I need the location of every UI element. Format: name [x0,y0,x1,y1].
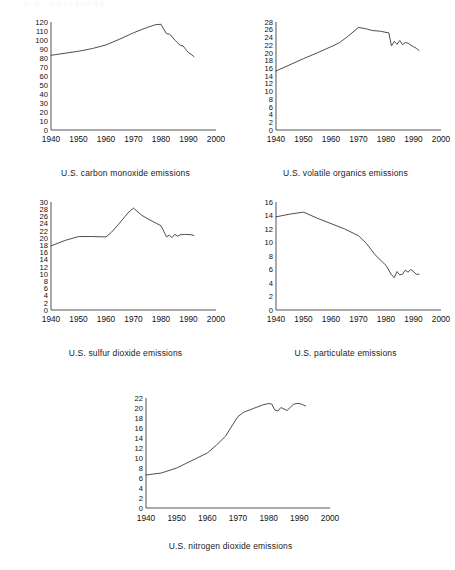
y-tick-label: 8 [139,464,143,473]
chart-panel-nitrogen-dioxide: 0246810121416182022194019501960197019801… [108,388,353,528]
y-tick-label: 12 [265,79,273,88]
x-tick-label: 2000 [432,134,451,144]
emissions-figure-page: U.S. EMISSIONS 0102030405060708090100110… [0,0,455,570]
x-tick-label: 1970 [124,134,143,144]
chart-volatile-organics: 0246810121416182022242628194019501960197… [243,14,455,149]
x-tick-label: 1980 [152,134,171,144]
chart-caption-volatile-organics: U.S. volatile organics emissions [238,168,453,178]
y-tick-label: 22 [135,394,143,403]
x-tick-label: 1990 [179,134,198,144]
chart-panel-sulfur-dioxide: 0246810121416182022242628301940195019601… [18,194,233,329]
x-tick-label: 1970 [229,513,248,523]
chart-caption-carbon-monoxide: U.S. carbon monoxide emissions [18,168,233,178]
y-tick-label: 2 [269,292,273,301]
y-tick-label: 12 [265,225,273,234]
x-tick-label: 1950 [294,314,313,324]
x-tick-label: 1980 [259,513,278,523]
x-tick-label: 2000 [207,134,226,144]
chart-panel-particulate: 0246810121416194019501960197019801990200… [243,194,455,329]
y-tick-label: 10 [40,117,48,126]
y-tick-label: 2 [269,118,273,127]
y-tick-label: 10 [265,238,273,247]
x-tick-label: 1980 [377,314,396,324]
y-tick-label: 10 [265,87,273,96]
x-tick-label: 1960 [97,134,116,144]
y-tick-label: 14 [135,434,143,443]
x-tick-label: 1960 [198,513,217,523]
data-series-line [51,208,194,246]
data-series-line [51,24,194,56]
x-tick-label: 1940 [267,314,286,324]
x-tick-label: 1960 [322,314,341,324]
y-tick-label: 8 [269,252,273,261]
y-tick-label: 30 [40,99,48,108]
x-tick-label: 1960 [97,314,116,324]
x-tick-label: 1970 [349,134,368,144]
x-tick-label: 1970 [349,314,368,324]
y-tick-label: 10 [135,454,143,463]
y-tick-label: 80 [40,54,48,63]
y-tick-label: 6 [269,265,273,274]
x-tick-label: 1940 [42,314,61,324]
x-tick-label: 1970 [124,314,143,324]
y-tick-label: 100 [35,36,48,45]
x-tick-label: 1950 [167,513,186,523]
chart-carbon-monoxide: 0102030405060708090100110120194019501960… [18,14,233,149]
y-tick-label: 14 [265,211,273,220]
y-tick-label: 4 [269,279,273,288]
data-series-line [146,404,305,476]
data-series-line [276,27,419,71]
y-tick-label: 120 [35,18,48,27]
y-tick-label: 28 [265,18,273,27]
y-tick-label: 14 [265,72,273,81]
y-tick-label: 40 [40,90,48,99]
x-tick-label: 1950 [69,134,88,144]
chart-caption-nitrogen-dioxide: U.S. nitrogen dioxide emissions [108,541,353,551]
y-tick-label: 4 [139,484,143,493]
data-series-line [276,212,419,277]
x-tick-label: 1940 [267,134,286,144]
y-tick-label: 4 [269,110,273,119]
y-tick-label: 16 [135,424,143,433]
y-tick-label: 20 [40,108,48,117]
chart-panel-carbon-monoxide: 0102030405060708090100110120194019501960… [18,14,233,149]
y-tick-label: 70 [40,63,48,72]
x-tick-label: 1990 [404,134,423,144]
y-tick-label: 60 [40,72,48,81]
x-tick-label: 1940 [42,134,61,144]
y-tick-label: 0 [139,504,143,513]
y-tick-label: 18 [135,414,143,423]
y-tick-label: 50 [40,81,48,90]
x-tick-label: 1990 [404,314,423,324]
chart-caption-particulate: U.S. particulate emissions [238,348,453,358]
y-tick-label: 8 [269,95,273,104]
y-tick-label: 22 [265,41,273,50]
chart-caption-sulfur-dioxide: U.S. sulfur dioxide emissions [18,348,233,358]
x-tick-label: 2000 [207,314,226,324]
chart-nitrogen-dioxide: 0246810121416182022194019501960197019801… [108,388,353,528]
y-tick-label: 16 [265,64,273,73]
y-tick-label: 18 [265,56,273,65]
x-tick-label: 1980 [152,314,171,324]
x-tick-label: 2000 [432,314,451,324]
x-tick-label: 1990 [290,513,309,523]
x-tick-label: 1960 [322,134,341,144]
y-tick-label: 110 [36,27,48,36]
y-tick-label: 26 [265,25,273,34]
x-tick-label: 1990 [179,314,198,324]
chart-sulfur-dioxide: 0246810121416182022242628301940195019601… [18,194,233,329]
faint-header-text: U.S. EMISSIONS [24,0,106,7]
x-tick-label: 1940 [137,513,156,523]
y-tick-label: 20 [135,404,143,413]
x-tick-label: 2000 [321,513,340,523]
x-tick-label: 1980 [377,134,396,144]
y-tick-label: 90 [40,45,48,54]
x-tick-label: 1950 [69,314,88,324]
y-tick-label: 6 [139,474,143,483]
y-tick-label: 16 [265,198,273,207]
chart-particulate: 0246810121416194019501960197019801990200… [243,194,455,329]
y-tick-label: 30 [40,198,48,207]
chart-panel-volatile-organics: 0246810121416182022242628194019501960197… [243,14,455,149]
x-tick-label: 1950 [294,134,313,144]
y-tick-label: 12 [135,444,143,453]
